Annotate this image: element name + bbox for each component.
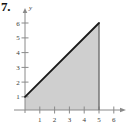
x-axis-arrow-icon — [120, 108, 126, 113]
x-tick-label: 6 — [112, 116, 116, 124]
y-tick-label: 4 — [16, 49, 20, 57]
y-tick-label: 3 — [16, 64, 20, 72]
x-tick-label: 5 — [97, 116, 101, 124]
y-tick-label: 6 — [16, 20, 20, 28]
coordinate-plot: y 1 2 3 4 5 6 1 2 3 4 5 6 — [0, 0, 129, 135]
y-axis-arrow-icon — [23, 8, 28, 13]
x-tick-label: 4 — [82, 116, 86, 124]
y-tick-label: 2 — [16, 79, 20, 87]
shaded-area — [25, 23, 99, 110]
figure-container: 7. — [0, 0, 129, 135]
y-tick-label: 5 — [16, 34, 20, 42]
x-tick-label: 2 — [53, 116, 57, 124]
y-tick-label: 1 — [16, 93, 20, 101]
y-axis-label: y — [28, 4, 33, 12]
x-tick-label: 3 — [68, 116, 72, 124]
x-tick-label: 1 — [38, 116, 42, 124]
